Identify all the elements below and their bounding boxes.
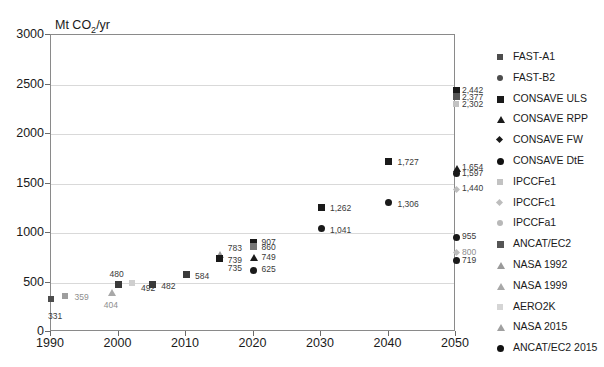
y-axis-title-tail: /yr xyxy=(96,18,110,32)
legend-item[interactable]: NASA 1992 xyxy=(497,256,604,277)
data-point-marker xyxy=(108,289,116,296)
data-point-label: 2,302 xyxy=(462,100,483,109)
legend-label: IPCCFa1 xyxy=(513,216,556,228)
legend-item[interactable]: CONSAVE RPP xyxy=(497,110,604,131)
data-point-label: 1,041 xyxy=(330,226,351,235)
legend-label: CONSAVE RPP xyxy=(513,112,588,124)
x-tick-mark xyxy=(320,331,321,336)
legend-item[interactable]: FAST-A1 xyxy=(497,48,604,69)
legend-item[interactable]: CONSAVE ULS xyxy=(497,90,604,111)
data-point-marker xyxy=(62,293,68,299)
data-point-label: 359 xyxy=(75,293,89,302)
legend-label: AERO2K xyxy=(513,300,556,312)
legend-label: NASA 2015 xyxy=(513,320,567,332)
data-point-label: 749 xyxy=(262,253,276,262)
x-tick-mark xyxy=(185,331,186,336)
data-point-label: 331 xyxy=(48,312,62,321)
data-point-label: 492 xyxy=(141,284,155,293)
legend-marker-icon xyxy=(497,158,504,165)
y-tick-mark xyxy=(45,183,50,184)
data-point-marker xyxy=(250,243,257,250)
gridline xyxy=(51,283,454,284)
y-tick-label: 1500 xyxy=(0,178,44,188)
data-point-marker xyxy=(453,101,459,107)
y-tick-label: 2500 xyxy=(0,79,44,89)
legend-label: NASA 1999 xyxy=(513,279,567,291)
legend-label: CONSAVE ULS xyxy=(513,92,587,104)
y-tick-mark xyxy=(45,232,50,233)
data-point-marker xyxy=(216,255,223,262)
gridline xyxy=(51,85,454,86)
legend-marker-icon xyxy=(497,345,504,352)
legend-label: ANCAT/EC2 2015 xyxy=(513,341,597,353)
legend-item[interactable]: ANCAT/EC2 2015 xyxy=(497,339,604,360)
data-point-marker xyxy=(318,225,325,232)
data-point-marker xyxy=(453,234,460,241)
legend-item[interactable]: CONSAVE DtE xyxy=(497,152,604,173)
data-point-label: 480 xyxy=(110,270,124,279)
data-point-marker xyxy=(48,296,54,302)
legend-marker-icon xyxy=(497,262,505,269)
data-point-label: 584 xyxy=(195,272,209,281)
legend-label: FAST-B2 xyxy=(513,71,555,83)
y-tick-label: 3000 xyxy=(0,29,44,39)
data-point-marker xyxy=(453,170,460,177)
data-point-marker xyxy=(385,158,392,165)
legend-marker-icon xyxy=(497,116,505,123)
legend-marker-icon xyxy=(497,54,503,60)
data-point-marker xyxy=(129,280,135,286)
gridline xyxy=(51,134,454,135)
legend-marker-icon xyxy=(497,179,503,185)
legend-item[interactable]: NASA 2015 xyxy=(497,318,604,339)
data-point-label: 955 xyxy=(462,232,476,241)
data-point-label: 404 xyxy=(104,301,118,310)
legend-label: IPCCFc1 xyxy=(513,196,556,208)
legend-item[interactable]: IPCCFa1 xyxy=(497,214,604,235)
data-point-label: 625 xyxy=(262,265,276,274)
legend-item[interactable]: AERO2K xyxy=(497,298,604,319)
legend-label: ANCAT/EC2 xyxy=(513,237,571,249)
legend-marker-icon xyxy=(497,137,502,142)
y-axis-title: Mt CO2/yr xyxy=(55,18,110,35)
y-tick-mark xyxy=(45,34,50,35)
y-axis-title-main: Mt CO xyxy=(55,18,91,32)
data-point-label: 860 xyxy=(262,243,276,252)
legend-label: CONSAVE FW xyxy=(513,133,583,145)
x-tick-mark xyxy=(253,331,254,336)
y-tick-label: 1000 xyxy=(0,227,44,237)
legend-label: IPCCFe1 xyxy=(513,175,556,187)
y-tick-label: 2000 xyxy=(0,128,44,138)
x-tick-mark xyxy=(50,331,51,336)
legend-marker-icon xyxy=(497,220,503,226)
legend: FAST-A1FAST-B2CONSAVE ULSCONSAVE RPPCONS… xyxy=(497,48,604,360)
y-tick-mark xyxy=(45,282,50,283)
legend-item[interactable]: ANCAT/EC2 xyxy=(497,235,604,256)
legend-item[interactable]: CONSAVE FW xyxy=(497,131,604,152)
data-point-marker xyxy=(452,186,459,193)
x-tick-mark xyxy=(455,331,456,336)
gridline xyxy=(51,233,454,234)
data-point-marker xyxy=(250,267,257,274)
y-tick-mark xyxy=(45,84,50,85)
x-tick-label: 2030 xyxy=(290,336,350,350)
x-tick-label: 2000 xyxy=(88,336,148,350)
chart-root: Mt CO2/yr 050010001500200025003000 19902… xyxy=(0,0,604,367)
legend-item[interactable]: IPCCFe1 xyxy=(497,173,604,194)
data-point-label: 1,262 xyxy=(330,204,351,213)
x-tick-label: 1990 xyxy=(20,336,80,350)
x-tick-mark xyxy=(118,331,119,336)
legend-item[interactable]: IPCCFc1 xyxy=(497,194,604,215)
data-point-marker xyxy=(115,281,122,288)
y-tick-mark xyxy=(45,133,50,134)
data-point-marker xyxy=(385,199,392,206)
legend-marker-icon xyxy=(497,75,503,81)
data-point-marker xyxy=(452,249,459,256)
x-tick-label: 2040 xyxy=(358,336,418,350)
data-point-marker xyxy=(250,254,258,261)
legend-marker-icon xyxy=(497,283,505,290)
legend-item[interactable]: NASA 1999 xyxy=(497,277,604,298)
data-point-label: 1,306 xyxy=(398,200,419,209)
legend-item[interactable]: FAST-B2 xyxy=(497,69,604,90)
legend-marker-icon xyxy=(497,241,504,248)
x-tick-label: 2050 xyxy=(425,336,485,350)
